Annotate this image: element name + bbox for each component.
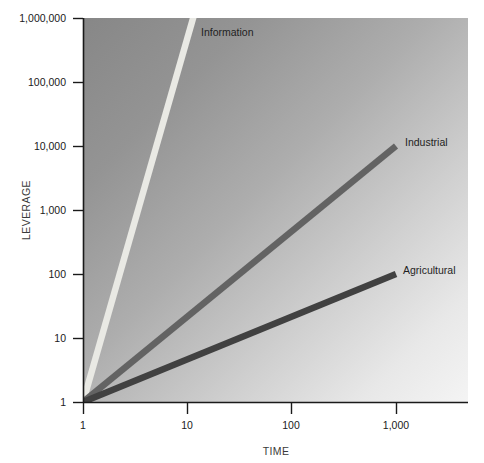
y-axis-title: LEVERAGE — [20, 180, 32, 240]
y-tick-label: 100 — [48, 268, 66, 280]
chart-figure: 1,000,000 100,000 10,000 1,000 100 10 1 … — [0, 0, 484, 463]
series-label-agricultural: Agricultural — [403, 264, 456, 276]
y-tick-label: 1,000,000 — [19, 12, 66, 24]
x-axis-title: TIME — [263, 445, 290, 457]
y-tick-label: 1,000 — [40, 204, 66, 216]
x-tick-label: 10 — [181, 419, 193, 431]
x-axis-tick-labels: 1 10 100 1,000 — [80, 419, 409, 431]
x-tick-label: 1 — [80, 419, 86, 431]
y-axis-ticks — [73, 19, 83, 403]
x-axis-ticks — [84, 403, 397, 414]
chart-svg: 1,000,000 100,000 10,000 1,000 100 10 1 … — [0, 0, 484, 463]
series-label-industrial: Industrial — [405, 136, 448, 148]
series-label-information: Information — [201, 26, 254, 38]
y-tick-label: 100,000 — [28, 76, 66, 88]
y-tick-label: 10 — [54, 332, 66, 344]
x-tick-label: 100 — [282, 419, 300, 431]
y-tick-label: 1 — [60, 396, 66, 408]
x-tick-label: 1,000 — [383, 419, 409, 431]
y-tick-label: 10,000 — [34, 140, 66, 152]
